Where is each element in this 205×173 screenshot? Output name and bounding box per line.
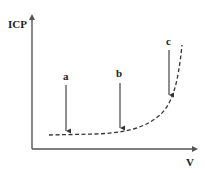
point-a-label: a: [63, 70, 69, 82]
y-axis-label: ICP: [8, 18, 27, 30]
point-b-label: b: [116, 67, 122, 79]
x-axis-label: V: [186, 156, 194, 168]
pressure-volume-diagram: ICP V a b c: [0, 0, 205, 173]
pressure-volume-curve: [49, 45, 182, 135]
point-c-label: c: [166, 35, 171, 47]
